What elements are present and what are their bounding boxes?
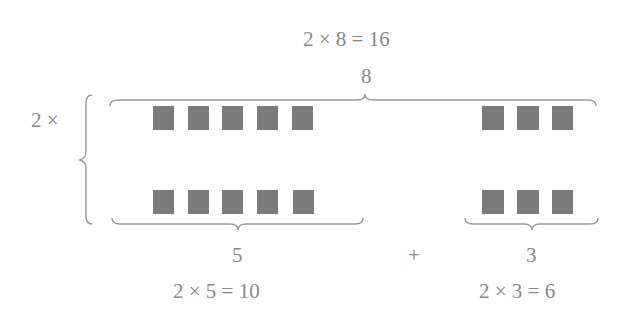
bottom-brace-right bbox=[465, 218, 598, 230]
top-row-right-squares bbox=[482, 106, 573, 130]
bottom-row-left-squares bbox=[153, 190, 314, 214]
left-group-count: 5 bbox=[232, 245, 243, 266]
left-brace bbox=[80, 95, 92, 224]
bottom-row-right-squares bbox=[482, 190, 573, 214]
bottom-brace-left bbox=[112, 218, 363, 230]
right-equation: 2 × 3 = 6 bbox=[479, 281, 555, 302]
right-group-count: 3 bbox=[526, 245, 537, 266]
top-brace bbox=[110, 94, 596, 106]
left-equation: 2 × 5 = 10 bbox=[173, 281, 260, 302]
row-multiplier-label: 2 × bbox=[31, 110, 59, 131]
plus-sign: + bbox=[408, 245, 420, 266]
top-equation: 2 × 8 = 16 bbox=[303, 29, 390, 50]
top-total-label: 8 bbox=[361, 66, 372, 87]
top-row-left-squares bbox=[153, 106, 313, 130]
